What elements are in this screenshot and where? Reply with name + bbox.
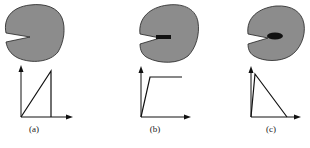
panel-b	[139, 5, 199, 120]
panel-a	[5, 5, 73, 120]
x-arrow-b	[184, 115, 191, 120]
graph-line-b	[141, 77, 182, 117]
graph-line-a	[21, 71, 51, 117]
y-arrow-a	[19, 65, 24, 72]
cracked-body-a	[5, 5, 64, 62]
figure-caption-faint	[90, 139, 220, 146]
x-arrow-c	[294, 115, 301, 120]
panel-label-b: (b)	[140, 124, 170, 134]
plastic-zone-ellipse-c	[267, 33, 283, 40]
graph-line-c	[251, 74, 287, 117]
panel-c	[248, 6, 305, 120]
cracked-body-b	[140, 5, 199, 63]
panel-label-c: (c)	[256, 124, 286, 134]
x-arrow-a	[66, 115, 73, 120]
y-arrow-c	[249, 66, 254, 73]
plastic-zone-rect-b	[156, 35, 171, 39]
panel-label-a: (a)	[19, 124, 49, 134]
y-arrow-b	[139, 66, 144, 73]
